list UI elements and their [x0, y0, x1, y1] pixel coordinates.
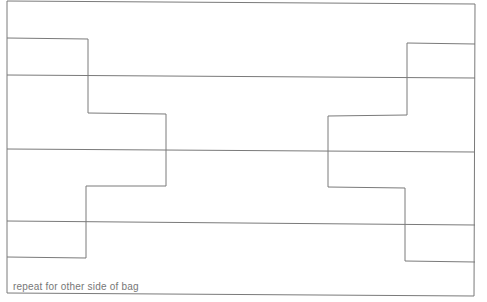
bag-pattern-diagram — [0, 0, 487, 302]
left-step-outline — [7, 38, 166, 258]
right-step-outline — [328, 43, 475, 262]
horizontal-line-2 — [7, 149, 475, 152]
horizontal-line-1 — [7, 75, 475, 78]
caption-text: repeat for other side of bag — [13, 281, 139, 292]
